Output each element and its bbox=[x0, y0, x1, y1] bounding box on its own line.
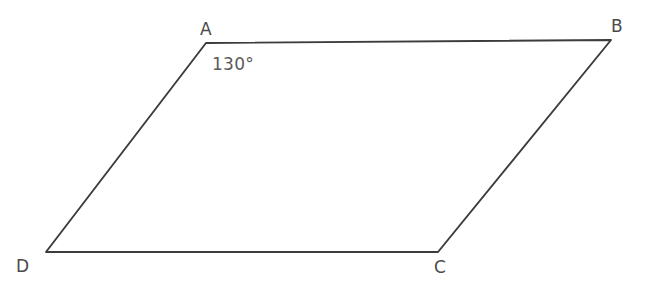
geometry-figure: A B C D 130° bbox=[0, 0, 646, 291]
vertex-label-a: A bbox=[200, 21, 212, 38]
angle-measure-label-a: 130° bbox=[212, 56, 254, 73]
parallelogram-outline bbox=[46, 40, 611, 252]
parallelogram-canvas bbox=[0, 0, 646, 291]
vertex-label-d: D bbox=[16, 258, 29, 275]
vertex-label-c: C bbox=[434, 259, 446, 276]
vertex-label-b: B bbox=[611, 18, 623, 35]
